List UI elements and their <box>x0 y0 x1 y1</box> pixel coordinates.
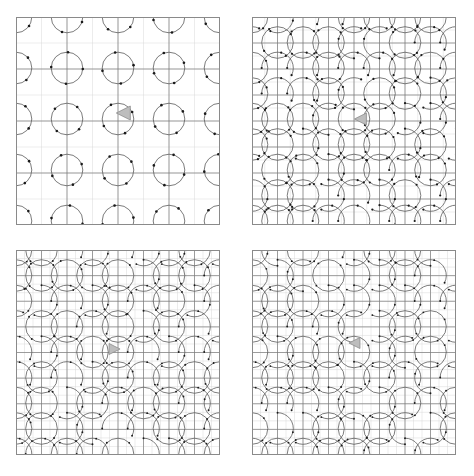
panel-top-left[interactable] <box>16 17 220 225</box>
panel-top-right[interactable] <box>252 17 456 225</box>
panel-plot <box>252 250 456 455</box>
panel-bottom-left[interactable] <box>16 250 220 455</box>
panel-plot <box>16 17 220 225</box>
figure-canvas <box>0 0 474 476</box>
panel-plot <box>252 17 456 225</box>
panel-plot <box>16 250 220 455</box>
panel-bottom-right[interactable] <box>252 250 456 455</box>
